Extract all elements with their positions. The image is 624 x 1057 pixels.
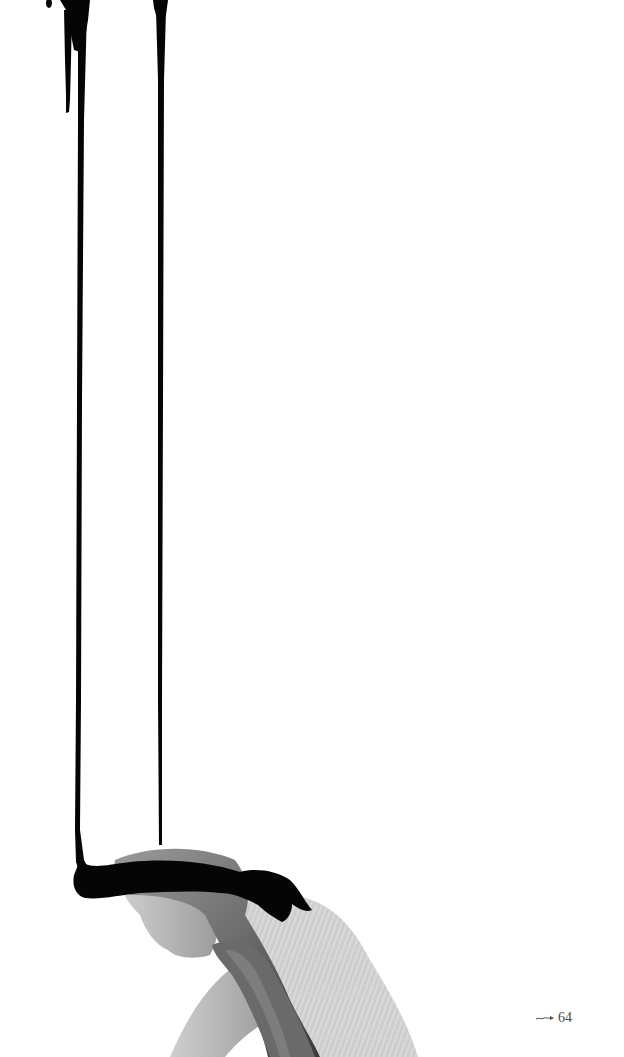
page-number: 64	[558, 1011, 572, 1025]
ink-top-blots	[46, 0, 168, 52]
ink-drip-left	[75, 10, 100, 880]
ink-drip-photo-illustration	[0, 0, 624, 1057]
flourish-arrow-icon	[535, 1014, 555, 1022]
ink-drip-short	[64, 10, 72, 113]
page-footer: 64	[535, 1011, 572, 1025]
ink-drip-right	[156, 10, 166, 845]
magazine-page: 64	[0, 0, 624, 1057]
